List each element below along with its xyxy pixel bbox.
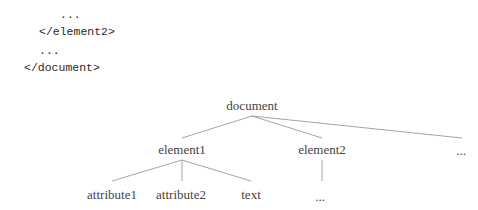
edge-element1-attribute1 (112, 160, 182, 181)
edge-document-ellipsis (252, 116, 462, 138)
tree-node-document: document (226, 98, 277, 114)
tree-node-text: text (241, 187, 261, 203)
edge-document-element1 (182, 116, 252, 138)
tree-node-element2: element2 (298, 142, 346, 158)
tree-node-element2-children: ... (315, 189, 325, 205)
edge-element1-text (182, 160, 251, 181)
tree-node-attribute2: attribute2 (156, 187, 206, 203)
tree-node-element1: element1 (158, 142, 206, 158)
tree-node-more-elements: ... (456, 143, 466, 159)
tree-node-attribute1: attribute1 (87, 187, 137, 203)
